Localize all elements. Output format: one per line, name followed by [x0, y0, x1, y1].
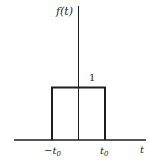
tick-main: −t	[44, 145, 56, 156]
x-axis-label: t	[140, 145, 144, 155]
x-tick-neg-t0: −t0	[44, 146, 61, 158]
pulse-chart: f(t) 1 −t0 t0 t	[0, 0, 155, 167]
y-axis-label: f(t)	[56, 6, 73, 17]
chart-canvas	[0, 0, 155, 167]
tick-subscript: 0	[104, 150, 108, 158]
x-tick-t0: t0	[100, 146, 109, 158]
height-label: 1	[89, 73, 95, 83]
tick-subscript: 0	[56, 150, 60, 158]
